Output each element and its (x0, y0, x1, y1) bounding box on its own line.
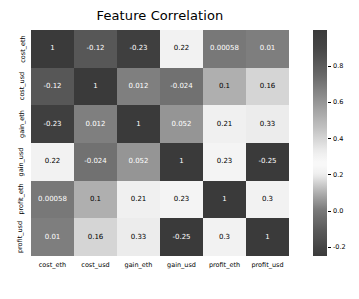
colorbar-tick-mark (328, 247, 331, 248)
heatmap-cell: 0.01 (246, 30, 289, 68)
heatmap-cell-value: 0.22 (174, 45, 190, 52)
heatmap-cell: 1 (246, 218, 289, 256)
heatmap-cell-value: 0.00058 (38, 196, 67, 203)
heatmap-cell: 0.33 (117, 218, 160, 256)
heatmap-plot-area: 1-0.12-0.230.220.000580.01-0.1210.012-0.… (31, 30, 289, 256)
y-tick-label-text: cost_usd (18, 72, 26, 100)
y-tick-profit_eth: profit_eth (4, 181, 39, 219)
heatmap-cell-value: -0.23 (129, 45, 147, 52)
colorbar-tick: 0.8 (328, 62, 343, 70)
colorbar-tick: 0.6 (328, 98, 343, 106)
colorbar-tick-text: 0.8 (333, 62, 343, 70)
heatmap-grid: 1-0.12-0.230.220.000580.01-0.1210.012-0.… (31, 30, 289, 256)
heatmap-cell-value: 1 (222, 196, 226, 203)
heatmap-cell-value: -0.25 (172, 234, 190, 241)
colorbar-tick-mark (328, 174, 331, 175)
heatmap-cell: 1 (117, 105, 160, 143)
x-tick-gain_usd: gain_usd (160, 258, 203, 278)
heatmap-cell-value: 0.3 (219, 234, 230, 241)
heatmap-cell-value: 0.012 (85, 121, 105, 128)
heatmap-cell-value: -0.25 (258, 158, 276, 165)
colorbar-tick-text: 0.2 (333, 171, 343, 179)
x-tick-profit_usd: profit_usd (246, 258, 289, 278)
heatmap-cell-value: 0.00058 (210, 45, 239, 52)
heatmap-cell-value: 0.052 (171, 121, 191, 128)
heatmap-cell-value: 0.052 (128, 158, 148, 165)
heatmap-cell: 0.23 (160, 181, 203, 219)
colorbar-tick: 0.0 (328, 207, 343, 215)
heatmap-cell: -0.23 (117, 30, 160, 68)
heatmap-cell-value: 0.1 (90, 196, 101, 203)
heatmap-cell-value: 0.22 (45, 158, 61, 165)
y-tick-label-text: gain_usd (18, 147, 26, 176)
heatmap-cell: 0.21 (117, 181, 160, 219)
heatmap-cell-value: -0.23 (43, 121, 61, 128)
heatmap-cell-value: 0.3 (262, 196, 273, 203)
heatmap-cell-value: 0.012 (128, 83, 148, 90)
heatmap-cell: 0.3 (246, 181, 289, 219)
heatmap-cell: 1 (74, 68, 117, 106)
y-tick-label-text: cost_eth (18, 35, 26, 62)
heatmap-cell-value: 1 (136, 121, 140, 128)
heatmap-cell: 0.16 (246, 68, 289, 106)
heatmap-cell: 1 (203, 181, 246, 219)
x-tick-cost_eth: cost_eth (31, 258, 74, 278)
heatmap-cell-value: -0.024 (84, 158, 107, 165)
x-axis-tick-labels: cost_ethcost_usdgain_ethgain_usdprofit_e… (31, 258, 289, 278)
colorbar-tick-mark (328, 102, 331, 103)
heatmap-cell-value: 0.16 (88, 234, 104, 241)
heatmap-cell-value: 0.21 (131, 196, 147, 203)
colorbar-tick: -0.2 (328, 243, 346, 251)
heatmap-cell-value: 0.01 (260, 45, 276, 52)
heatmap-cell-value: 0.23 (217, 158, 233, 165)
x-tick-profit_eth: profit_eth (203, 258, 246, 278)
colorbar-tick-mark (328, 138, 331, 139)
heatmap-cell-value: -0.12 (43, 83, 61, 90)
heatmap-cell: 0.33 (246, 105, 289, 143)
y-tick-gain_eth: gain_eth (4, 105, 39, 143)
heatmap-cell: -0.12 (74, 30, 117, 68)
colorbar-tick-mark (328, 211, 331, 212)
heatmap-cell: 0.1 (203, 68, 246, 106)
y-tick-cost_eth: cost_eth (4, 30, 39, 68)
heatmap-cell: 0.16 (74, 218, 117, 256)
colorbar-tick: 0.2 (328, 171, 343, 179)
y-tick-label-text: profit_eth (17, 184, 25, 215)
y-tick-gain_usd: gain_usd (4, 143, 39, 181)
heatmap-cell: 0.22 (160, 30, 203, 68)
heatmap-cell-value: 1 (93, 83, 97, 90)
heatmap-cell-value: 0.16 (260, 83, 276, 90)
colorbar-tick-text: 0.6 (333, 98, 343, 106)
heatmap-cell: -0.024 (160, 68, 203, 106)
colorbar-tick-labels: 0.80.60.40.20.0-0.2 (328, 30, 358, 256)
heatmap-cell: -0.25 (246, 143, 289, 181)
colorbar-gradient (313, 30, 327, 256)
heatmap-cell-value: 0.01 (45, 234, 61, 241)
colorbar-tick-mark (328, 66, 331, 67)
heatmap-cell-value: 0.1 (219, 83, 230, 90)
y-tick-profit_usd: profit_usd (4, 218, 39, 256)
heatmap-cell: 0.00058 (203, 30, 246, 68)
heatmap-cell: 0.21 (203, 105, 246, 143)
heatmap-cell: 0.012 (74, 105, 117, 143)
heatmap-cell-value: 1 (265, 234, 269, 241)
colorbar-tick-text: 0.0 (333, 207, 343, 215)
heatmap-cell: -0.25 (160, 218, 203, 256)
y-tick-label-text: profit_usd (16, 221, 24, 253)
y-axis-tick-labels: cost_ethcost_usdgain_ethgain_usdprofit_e… (4, 30, 30, 256)
heatmap-cell: 1 (160, 143, 203, 181)
y-tick-cost_usd: cost_usd (4, 68, 39, 106)
x-tick-gain_eth: gain_eth (117, 258, 160, 278)
colorbar-tick-text: -0.2 (333, 243, 346, 251)
heatmap-cell: 0.23 (203, 143, 246, 181)
heatmap-cell: 0.3 (203, 218, 246, 256)
heatmap-cell-value: 0.23 (174, 196, 190, 203)
heatmap-cell: -0.024 (74, 143, 117, 181)
colorbar (313, 30, 327, 256)
heatmap-cell-value: -0.024 (170, 83, 193, 90)
x-tick-cost_usd: cost_usd (74, 258, 117, 278)
heatmap-cell-value: 0.21 (217, 121, 233, 128)
heatmap-cell-value: 1 (50, 45, 54, 52)
figure-canvas: Feature Correlation 1-0.12-0.230.220.000… (0, 0, 359, 299)
heatmap-cell-value: 0.33 (260, 121, 276, 128)
